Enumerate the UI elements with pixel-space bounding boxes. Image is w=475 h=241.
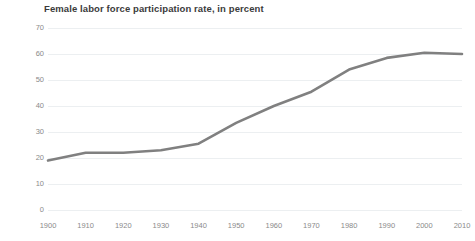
x-axis-tick-label: 1950: [216, 221, 256, 230]
x-axis-tick-label: 1970: [291, 221, 331, 230]
x-axis-tick-label: 1960: [254, 221, 294, 230]
x-axis-tick-label: 1930: [141, 221, 181, 230]
x-axis-tick-label: 2000: [404, 221, 444, 230]
x-axis-tick-label: 1910: [66, 221, 106, 230]
x-axis-tick-label: 2010: [442, 221, 475, 230]
x-axis-tick-label: 1920: [103, 221, 143, 230]
x-axis-tick-label: 1940: [179, 221, 219, 230]
x-axis-tick-label: 1980: [329, 221, 369, 230]
x-axis-tick-label: 1900: [28, 221, 68, 230]
x-axis-tick-label: 1990: [367, 221, 407, 230]
